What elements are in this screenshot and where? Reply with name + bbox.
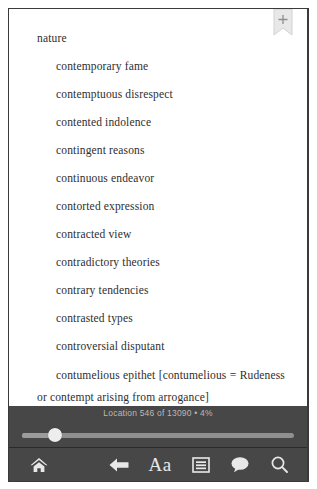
list-item: contradictory theories: [37, 248, 285, 276]
page-heading: nature: [37, 24, 285, 52]
home-button[interactable]: [15, 448, 63, 481]
list-item: contented indolence: [37, 108, 285, 136]
list-icon: [192, 457, 210, 473]
list-item: contingent reasons: [37, 136, 285, 164]
list-item: controversial disputant: [37, 332, 285, 360]
search-icon: [270, 455, 289, 474]
table-of-contents-button[interactable]: [182, 448, 221, 481]
notes-button[interactable]: [221, 448, 260, 481]
back-button[interactable]: [99, 448, 138, 481]
list-item: contemptuous disrespect: [37, 80, 285, 108]
bottom-toolbar: Aa: [9, 448, 307, 481]
back-arrow-icon: [108, 457, 130, 473]
slider-track[interactable]: [22, 433, 294, 438]
list-item: contrasted types: [37, 304, 285, 332]
list-item: contrary tendencies: [37, 276, 285, 304]
ereader-screen: nature contemporary fame contemptuous di…: [0, 0, 317, 489]
list-item: continuous endeavor: [37, 164, 285, 192]
search-button[interactable]: [260, 448, 299, 481]
list-item: contracted view: [37, 220, 285, 248]
status-bar: Location 546 of 13090 • 4%: [9, 406, 307, 448]
definition-list-item: contumelious epithet [contumelious = Rud…: [37, 360, 285, 406]
home-icon: [29, 456, 49, 474]
font-size-button[interactable]: Aa: [139, 448, 182, 481]
slider-knob[interactable]: [48, 428, 62, 442]
comment-bubble-icon: [230, 456, 250, 473]
font-size-label: Aa: [149, 455, 172, 474]
list-item: contemporary fame: [37, 52, 285, 80]
bookmark-add-icon[interactable]: [270, 9, 296, 45]
location-status-text: Location 546 of 13090 • 4%: [9, 408, 307, 418]
page-text-body: nature contemporary fame contemptuous di…: [9, 9, 307, 406]
reader-frame: nature contemporary fame contemptuous di…: [8, 8, 309, 482]
list-item: contorted expression: [37, 192, 285, 220]
reading-page[interactable]: nature contemporary fame contemptuous di…: [9, 9, 307, 406]
reading-progress-slider[interactable]: [22, 428, 294, 442]
